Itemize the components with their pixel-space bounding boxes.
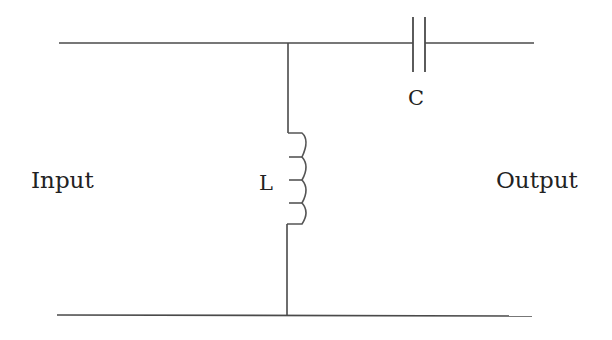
bottom-wire: [57, 315, 532, 316]
circuit-diagram: Input Output C L: [0, 0, 612, 340]
inductor-symbol: [287, 133, 306, 224]
inductor-coil: [287, 133, 306, 224]
inductor-label: L: [259, 171, 273, 195]
capacitor-symbol: [413, 17, 425, 72]
capacitor-label: C: [408, 86, 424, 110]
input-label: Input: [31, 167, 94, 193]
output-label: Output: [496, 167, 578, 193]
